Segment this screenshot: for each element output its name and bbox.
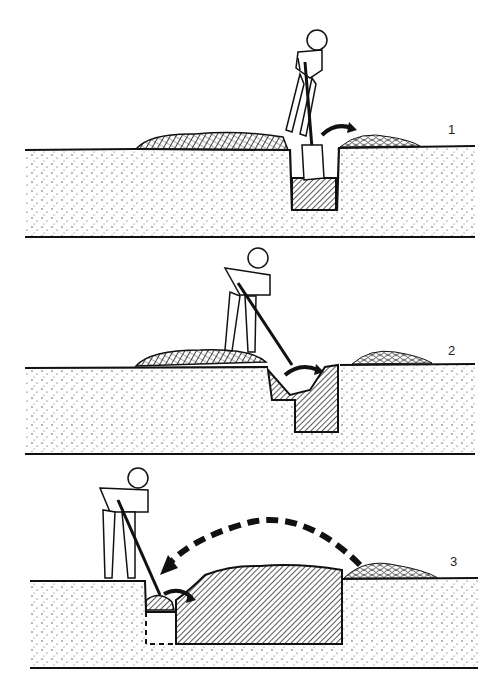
soil-pile-right <box>340 135 420 147</box>
step-number-2: 2 <box>448 343 455 358</box>
panel-step-1: 1 <box>25 30 475 237</box>
gardener-figure <box>286 30 327 180</box>
arrow-icon <box>285 367 318 375</box>
topsoil-pile-left <box>136 350 266 366</box>
soil-pile-right <box>352 351 432 364</box>
topsoil-pile-left <box>136 133 288 150</box>
gardener-figure <box>100 468 160 595</box>
gardener-figure <box>225 248 292 365</box>
dashed-return-arrow-icon <box>168 520 360 565</box>
panel-step-3: 3 <box>30 468 478 668</box>
double-digging-illustration: 1 2 <box>0 0 504 679</box>
step-number-3: 3 <box>450 554 457 569</box>
step-number-1: 1 <box>448 122 455 137</box>
panel-step-2: 2 <box>25 248 475 454</box>
